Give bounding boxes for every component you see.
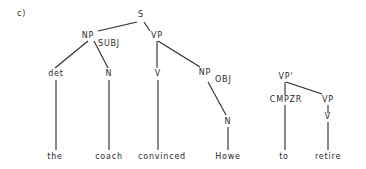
- node-det: det: [48, 69, 64, 78]
- leaf-word: retire: [315, 152, 341, 161]
- tree-edge: [208, 82, 226, 115]
- node-vp2: VP: [322, 95, 334, 104]
- tree-edge: [98, 22, 137, 31]
- node-cmpzr: CMPZR: [270, 95, 302, 104]
- tree-edge: [55, 41, 88, 68]
- figure-label: c): [17, 9, 26, 18]
- node-vp: VP: [151, 31, 163, 40]
- node-n1: N: [106, 69, 113, 78]
- node-n2: N: [225, 117, 232, 126]
- node-np_obj: NP: [199, 68, 211, 77]
- tree-nodes: SNPSUBJVPdetNVNPOBJNVP'CMPZRVPV: [48, 10, 334, 126]
- leaf-word: the: [47, 152, 63, 161]
- node-np_subj: NP: [82, 31, 94, 40]
- node-vpprime: VP': [279, 72, 294, 81]
- node-v2: V: [325, 112, 331, 121]
- tree-edge: [158, 41, 200, 67]
- node-s: S: [138, 10, 144, 19]
- node-subscript: OBJ: [215, 75, 232, 84]
- node-subscript: SUBJ: [98, 39, 120, 48]
- tree-edges: [55, 22, 328, 150]
- tree-edge: [144, 22, 150, 31]
- tree-edge: [286, 82, 322, 94]
- syntax-tree-diagram: c) SNPSUBJVPdetNVNPOBJNVP'CMPZRVPV theco…: [0, 0, 366, 169]
- leaf-word: convinced: [138, 152, 186, 161]
- tree-leaf-words: thecoachconvincedHowetoretire: [47, 152, 341, 161]
- leaf-word: Howe: [215, 152, 241, 161]
- leaf-word: to: [279, 152, 289, 161]
- leaf-word: coach: [95, 152, 123, 161]
- node-v1: V: [155, 69, 161, 78]
